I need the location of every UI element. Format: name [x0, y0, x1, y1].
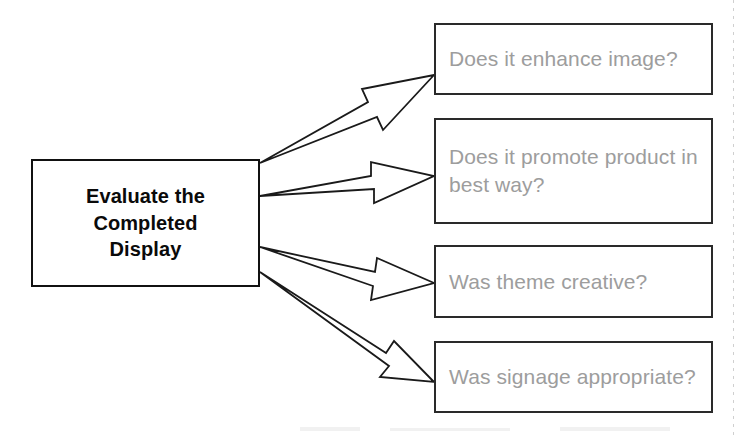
node-promote-product[interactable]: Does it promote product in best way?	[434, 118, 713, 224]
diagram-canvas: Evaluate the Completed Display Does it e…	[0, 0, 749, 440]
scan-smudge-bottom-3	[560, 427, 670, 431]
node-evaluate-display-label: Evaluate the Completed Display	[86, 183, 205, 262]
arrow-to-promote-product	[260, 162, 434, 203]
arrow-to-enhance-image	[260, 75, 434, 163]
scan-smudge-bottom-2	[390, 428, 510, 431]
node-enhance-image-label: Does it enhance image?	[449, 45, 678, 73]
scan-edge-artifact	[733, 0, 734, 440]
node-theme-creative[interactable]: Was theme creative?	[434, 245, 713, 318]
node-signage-appropriate-label: Was signage appropriate?	[449, 363, 696, 391]
node-theme-creative-label: Was theme creative?	[449, 268, 647, 296]
node-enhance-image[interactable]: Does it enhance image?	[434, 23, 713, 95]
scan-smudge-bottom	[300, 427, 360, 431]
node-signage-appropriate[interactable]: Was signage appropriate?	[434, 341, 713, 413]
node-promote-product-label: Does it promote product in best way?	[449, 143, 698, 199]
node-evaluate-display[interactable]: Evaluate the Completed Display	[31, 159, 260, 287]
